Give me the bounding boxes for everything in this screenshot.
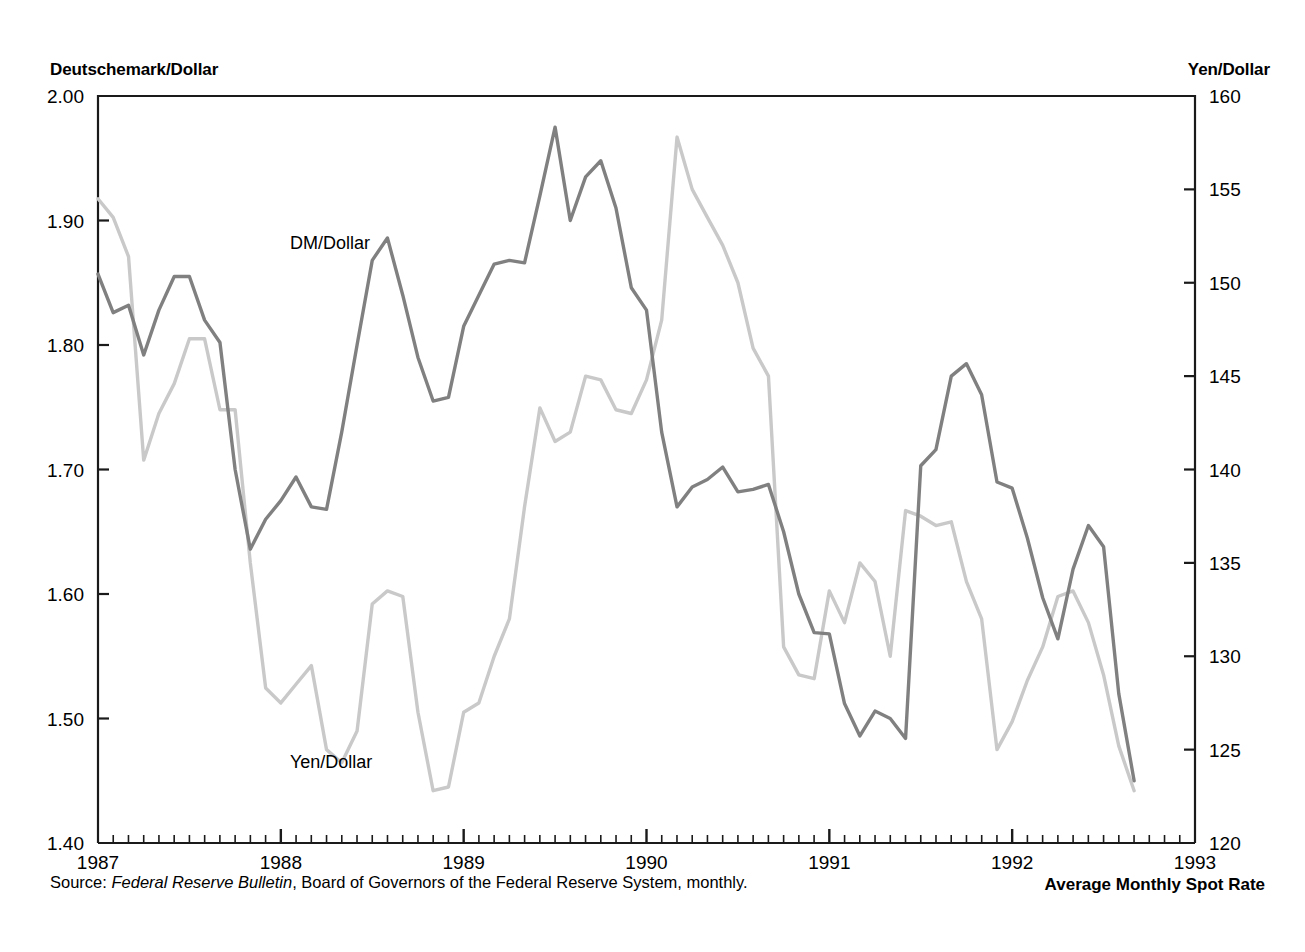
- right-tick-label: 125: [1209, 740, 1241, 761]
- right-tick-label: 135: [1209, 553, 1241, 574]
- x-tick-label: 1988: [260, 852, 302, 873]
- source-prefix: Source:: [50, 873, 111, 891]
- x-tick-label: 1989: [443, 852, 485, 873]
- left-tick-label: 1.50: [47, 709, 84, 730]
- right-tick-label: 120: [1209, 833, 1241, 854]
- exchange-rate-chart: Deutschemark/Dollar Yen/Dollar 1.401.501…: [0, 0, 1305, 952]
- left-axis-title: Deutschemark/Dollar: [50, 60, 219, 79]
- right-tick-label: 160: [1209, 86, 1241, 107]
- x-tick-label: 1992: [991, 852, 1033, 873]
- left-tick-label: 1.40: [47, 833, 84, 854]
- x-tick-label: 1993: [1174, 852, 1216, 873]
- x-tick-label: 1991: [808, 852, 850, 873]
- left-tick-label: 2.00: [47, 86, 84, 107]
- right-tick-label: 145: [1209, 366, 1241, 387]
- annotation-yen-dollar: Yen/Dollar: [290, 752, 372, 772]
- bottom-chart-title: Average Monthly Spot Rate: [1045, 875, 1265, 894]
- left-tick-label: 1.70: [47, 460, 84, 481]
- chart-svg: Deutschemark/Dollar Yen/Dollar 1.401.501…: [0, 0, 1305, 952]
- x-tick-label: 1987: [77, 852, 119, 873]
- source-suffix: , Board of Governors of the Federal Rese…: [292, 873, 747, 891]
- right-tick-label: 150: [1209, 273, 1241, 294]
- right-tick-label: 155: [1209, 179, 1241, 200]
- left-tick-label: 1.60: [47, 584, 84, 605]
- source-note: Source: Federal Reserve Bulletin, Board …: [50, 873, 748, 891]
- annotation-dm-dollar: DM/Dollar: [290, 233, 370, 253]
- x-tick-label: 1990: [625, 852, 667, 873]
- left-tick-label: 1.90: [47, 211, 84, 232]
- right-axis-title: Yen/Dollar: [1188, 60, 1271, 79]
- chart-background: [0, 0, 1305, 952]
- right-tick-label: 140: [1209, 460, 1241, 481]
- left-tick-label: 1.80: [47, 335, 84, 356]
- right-tick-label: 130: [1209, 646, 1241, 667]
- source-publication-title: Federal Reserve Bulletin: [111, 873, 292, 891]
